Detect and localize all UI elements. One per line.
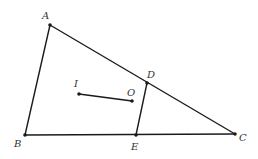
segment-IO — [79, 94, 132, 101]
point-A — [48, 23, 52, 27]
segment-AB — [25, 25, 50, 135]
point-B — [23, 133, 27, 137]
segments — [25, 25, 235, 135]
label-C: C — [239, 132, 247, 143]
points — [23, 23, 237, 137]
label-O: O — [127, 87, 135, 98]
label-A: A — [41, 10, 49, 21]
point-E — [134, 133, 138, 137]
segment-BC — [25, 134, 235, 135]
point-D — [145, 81, 149, 85]
label-E: E — [130, 141, 139, 152]
point-O — [130, 99, 134, 103]
point-I — [77, 92, 81, 96]
label-D: D — [146, 69, 155, 80]
segment-DE — [136, 83, 147, 135]
label-I: I — [73, 78, 79, 89]
label-B: B — [13, 138, 21, 149]
geometry-diagram: ABCDEIO — [0, 0, 258, 159]
point-C — [233, 132, 237, 136]
